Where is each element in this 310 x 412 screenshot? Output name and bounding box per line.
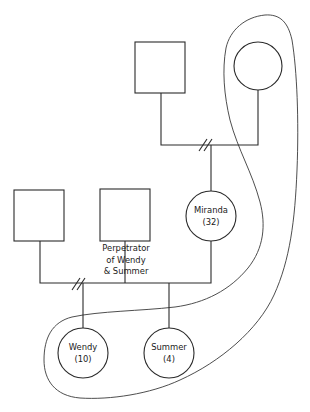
grandmother-circle <box>234 42 282 90</box>
grandparents-marriage-line <box>161 90 258 145</box>
miranda-age: (32) <box>186 217 236 229</box>
perpetrator-caption-line-3: & Summer <box>94 266 158 278</box>
grandfather-square <box>135 42 185 93</box>
summer-label: Summer (4) <box>144 342 194 365</box>
left-male-square <box>14 190 64 241</box>
perpetrator-caption-line-1: Perpetrator <box>94 243 158 255</box>
wendy-age: (10) <box>58 354 108 366</box>
perpetrator-caption-line-2: of Wendy <box>94 255 158 267</box>
perpetrator-square <box>100 189 150 241</box>
miranda-name: Miranda <box>186 205 236 217</box>
wendy-label: Wendy (10) <box>58 342 108 365</box>
summer-name: Summer <box>144 342 194 354</box>
perpetrator-caption: Perpetrator of Wendy & Summer <box>94 243 158 278</box>
summer-age: (4) <box>144 354 194 366</box>
miranda-label: Miranda (32) <box>186 205 236 228</box>
wendy-name: Wendy <box>58 342 108 354</box>
